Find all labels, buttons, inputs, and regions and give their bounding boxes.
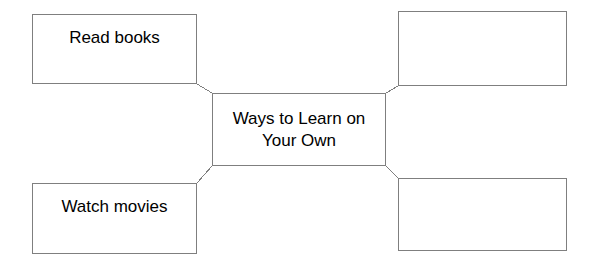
node-box-bottom-right[interactable] bbox=[398, 178, 567, 251]
connector-top-right bbox=[386, 86, 398, 93]
connector-top-left bbox=[197, 84, 212, 93]
node-box-top-right[interactable] bbox=[398, 11, 567, 86]
node-label-bottom-left: Watch movies bbox=[33, 196, 196, 218]
node-box-bottom-left[interactable]: Watch movies bbox=[32, 183, 197, 254]
node-label-top-left: Read books bbox=[33, 27, 196, 49]
diagram-canvas: Read books Ways to Learn on Your Own Wat… bbox=[0, 0, 596, 264]
connector-bottom-right bbox=[386, 166, 398, 178]
node-label-center: Ways to Learn on Your Own bbox=[213, 108, 385, 152]
node-box-top-left[interactable]: Read books bbox=[32, 14, 197, 84]
connector-bottom-left bbox=[197, 166, 212, 183]
node-box-center[interactable]: Ways to Learn on Your Own bbox=[212, 93, 386, 166]
